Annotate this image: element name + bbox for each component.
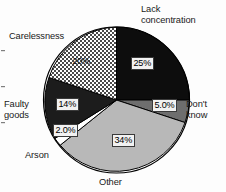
slice-label-carelessness: Carelessness: [9, 31, 64, 42]
slice-value-arson: 2.0%: [53, 124, 78, 137]
slice-value-carelessness: 20%: [71, 56, 92, 67]
slice-label-arson: Arson: [25, 150, 49, 161]
slice-label-other: Other: [99, 177, 122, 188]
slice-value-other: 34%: [112, 134, 135, 147]
slice-label-faulty-goods: Faulty goods: [4, 99, 29, 120]
pie-chart-figure: Lack concentration Carelessness Faulty g…: [0, 0, 226, 192]
slice-label-dont-know: Don't know: [186, 99, 207, 120]
slice-value-faulty-goods: 14%: [56, 98, 79, 111]
pie-chart-canvas: [0, 0, 226, 192]
slice-label-lack-concentration: Lack concentration: [141, 4, 196, 25]
slice-value-lack-concentration: 25%: [131, 57, 154, 70]
slice-value-dont-know: 5.0%: [152, 99, 177, 112]
